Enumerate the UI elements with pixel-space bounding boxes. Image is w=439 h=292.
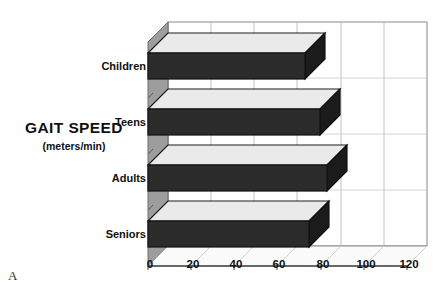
x-tick-label-20: 20 (187, 258, 200, 270)
x-tick-label-120: 120 (399, 258, 418, 270)
bar-children (148, 33, 325, 79)
x-tick-label-80: 80 (317, 258, 330, 270)
x-tick-label-100: 100 (356, 258, 375, 270)
category-label-seniors: Seniors (56, 228, 146, 240)
category-label-adults: Adults (56, 172, 146, 184)
bar-teens (148, 89, 340, 135)
x-tick-label-40: 40 (230, 258, 243, 270)
gait-speed-chart-figure: GAIT SPEED (meters/min) A (0, 0, 439, 292)
category-label-teens: Teens (56, 116, 146, 128)
panel-letter: A (8, 268, 17, 284)
bar-seniors (148, 201, 329, 247)
bar-adults (148, 145, 347, 191)
x-tick-label-60: 60 (273, 258, 286, 270)
category-label-children: Children (56, 60, 146, 72)
x-tick-label-0: 0 (147, 258, 153, 270)
category-axis-labels: Children Teens Adults Seniors (48, 0, 146, 292)
